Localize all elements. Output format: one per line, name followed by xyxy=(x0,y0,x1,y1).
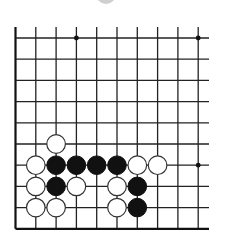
star-point-icon xyxy=(74,36,79,41)
black-stone xyxy=(128,198,147,217)
go-board xyxy=(0,0,225,249)
white-stone xyxy=(27,156,46,175)
cropped-stone-marker xyxy=(96,0,116,4)
black-stone xyxy=(47,177,66,196)
white-stone xyxy=(27,198,46,217)
black-stone xyxy=(67,156,86,175)
star-point-icon xyxy=(196,163,201,168)
star-point-icon xyxy=(196,36,201,41)
white-stone xyxy=(148,156,167,175)
black-stone xyxy=(108,156,127,175)
white-stone xyxy=(128,156,147,175)
white-stone xyxy=(47,198,66,217)
black-stone xyxy=(87,156,106,175)
white-stone xyxy=(67,177,86,196)
white-stone xyxy=(108,177,127,196)
white-stone xyxy=(47,135,66,154)
black-stone xyxy=(128,177,147,196)
ghost-stone xyxy=(96,0,116,4)
white-stone xyxy=(108,198,127,217)
board-grid xyxy=(16,27,210,229)
black-stone xyxy=(47,156,66,175)
white-stone xyxy=(27,177,46,196)
